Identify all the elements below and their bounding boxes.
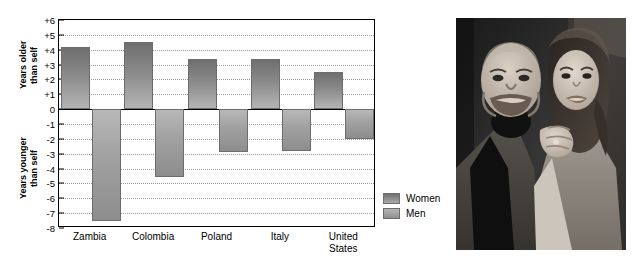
y-tick-mark (59, 198, 64, 199)
bar-poland-women (188, 59, 217, 110)
y-tick-label: -1 (33, 119, 55, 130)
legend-item-women: Women (383, 193, 440, 204)
bar-poland-men (219, 109, 248, 152)
y-tick-label: -5 (33, 178, 55, 189)
y-tick-label: -4 (33, 163, 55, 174)
y-tick-label: +3 (33, 59, 55, 70)
y-tick-label: -2 (33, 133, 55, 144)
y-tick-mark (59, 153, 64, 154)
figure-root: Years older than self Years younger than… (0, 0, 633, 271)
bar-zambia-men (92, 109, 121, 220)
y-tick-mark (59, 228, 64, 229)
legend-swatch-women (383, 193, 400, 204)
grid-line (59, 50, 374, 51)
y-tick-mark (59, 20, 64, 21)
bar-italy-men (282, 109, 311, 151)
x-axis-label: Zambia (73, 231, 106, 243)
legend-item-men: Men (383, 208, 440, 219)
x-axis-label: United States (329, 231, 358, 255)
y-tick-label: -7 (33, 208, 55, 219)
y-tick-label: +1 (33, 89, 55, 100)
legend-swatch-men (383, 208, 400, 219)
bar-italy-women (251, 59, 280, 110)
x-axis-label: Poland (201, 231, 232, 243)
chart-legend: Women Men (383, 193, 440, 223)
y-tick-mark (59, 168, 64, 169)
y-tick-label: +5 (33, 29, 55, 40)
y-tick-label: +2 (33, 74, 55, 85)
legend-label-women: Women (406, 193, 440, 204)
couple-photograph (456, 18, 626, 250)
y-tick-mark (59, 34, 64, 35)
y-tick-mark (59, 138, 64, 139)
bar-zambia-women (61, 47, 90, 109)
y-tick-mark (59, 183, 64, 184)
grid-line (59, 65, 374, 66)
y-tick-label: -3 (33, 148, 55, 159)
grid-line (59, 35, 374, 36)
bar-colombia-women (124, 42, 153, 109)
bar-united-states-women (314, 72, 343, 109)
photograph-image (456, 18, 626, 250)
bar-colombia-men (155, 109, 184, 177)
x-axis-label: Italy (271, 231, 289, 243)
x-axis-label: Colombia (132, 231, 174, 243)
bar-united-states-men (345, 109, 374, 139)
y-tick-label: +6 (33, 15, 55, 26)
plot-area: +6+5+4+3+2+10-1-2-3-4-5-6-7-8 (58, 19, 375, 227)
y-tick-label: -6 (33, 193, 55, 204)
y-tick-label: 0 (33, 104, 55, 115)
y-tick-mark (59, 124, 64, 125)
y-tick-label: +4 (33, 44, 55, 55)
legend-label-men: Men (406, 208, 425, 219)
bar-chart: Years older than self Years younger than… (0, 0, 450, 271)
y-tick-mark (59, 213, 64, 214)
y-tick-label: -8 (33, 223, 55, 234)
